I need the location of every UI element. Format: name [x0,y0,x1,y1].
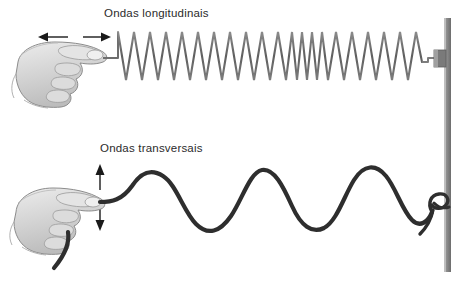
page-title-transversal: Ondas transversais [100,142,203,154]
hand-gripping-icon [12,42,107,108]
wall-bracket-icon [434,50,446,67]
transverse-rope [100,167,432,231]
double-arrow-horizontal-icon [38,33,111,42]
longitudinal-spring [118,32,422,80]
hand-gripping-icon [10,188,105,255]
diagram-canvas [0,0,466,285]
wave-types-diagram: Ondas longitudinais Ondas transversais [0,0,466,285]
page-title-longitudinal: Ondas longitudinais [104,7,209,19]
